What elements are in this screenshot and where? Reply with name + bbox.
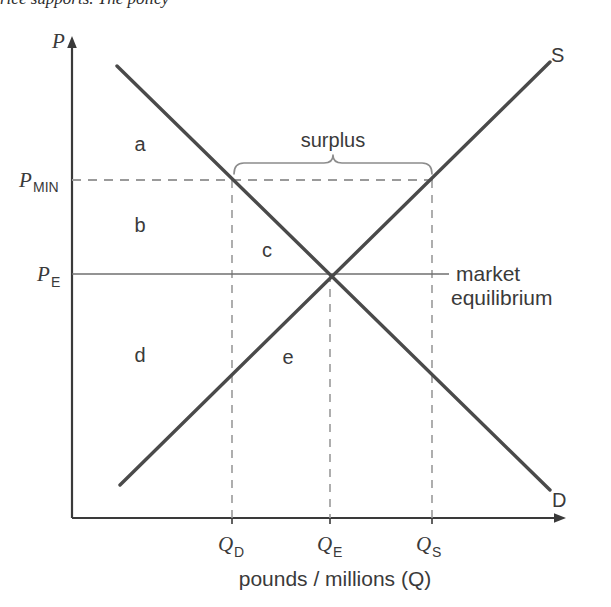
region-label-e: e xyxy=(282,346,293,368)
qs-tick-label: Q S xyxy=(416,532,441,560)
surplus-brace xyxy=(234,155,432,174)
supply-demand-price-floor-diagram: S D surplus P P MIN P E Q D Q E Q S poun… xyxy=(0,0,611,607)
y-axis-label: P xyxy=(51,29,65,53)
pe-subscript: E xyxy=(51,274,60,290)
qs-subscript: S xyxy=(432,544,441,560)
qs-base: Q xyxy=(416,532,431,556)
supply-curve-label: S xyxy=(551,44,564,66)
market-equilibrium-label-line1: market xyxy=(456,262,520,285)
surplus-label: surplus xyxy=(301,129,365,151)
pmin-base: P xyxy=(18,168,32,192)
pe-tick-label: P E xyxy=(36,262,60,290)
qd-subscript: D xyxy=(234,544,244,560)
pe-base: P xyxy=(36,262,50,286)
qd-base: Q xyxy=(218,532,233,556)
qe-subscript: E xyxy=(333,544,342,560)
pmin-tick-label: P MIN xyxy=(18,168,59,195)
surplus-brace-group xyxy=(234,155,432,174)
demand-curve-label: D xyxy=(552,489,566,511)
market-equilibrium-label-line2: equilibrium xyxy=(451,286,553,309)
qe-tick-label: Q E xyxy=(317,532,342,560)
region-label-a: a xyxy=(134,133,146,155)
region-label-d: d xyxy=(134,344,145,366)
x-axis-title: pounds / millions (Q) xyxy=(239,567,432,590)
region-label-b: b xyxy=(134,214,145,236)
y-axis-arrowhead xyxy=(67,36,77,48)
region-label-c: c xyxy=(262,239,272,261)
x-axis-arrowhead xyxy=(554,513,566,523)
qd-tick-label: Q D xyxy=(218,532,244,560)
pmin-subscript: MIN xyxy=(33,179,59,195)
qe-base: Q xyxy=(317,532,332,556)
